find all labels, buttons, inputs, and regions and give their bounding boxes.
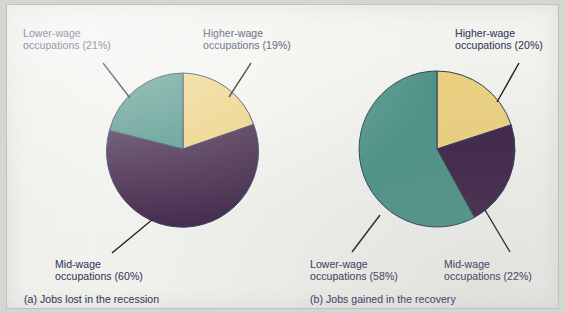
pie-a-label-mid-wage-line2: occupations (60%) (55, 270, 143, 282)
leader-line-a-lower-wage (103, 63, 130, 98)
leader-line-a-higher-wage (229, 63, 251, 97)
pie-a-label-lower-wage-line1: Lower-wage (23, 27, 81, 39)
pie-a-label-lower-wage-line2: occupations (21%) (23, 39, 111, 51)
pie-b-label-higher-wage-line2: occupations (20%) (455, 39, 543, 51)
pie-b-label-lower-wage-line1: Lower-wage (310, 258, 368, 270)
pie-a-label-higher-wage-line1: Higher-wage (203, 27, 263, 39)
pie-b-label-higher-wage: Higher-wage occupations (20%) (455, 27, 543, 52)
leader-line-b-lower-wage (352, 215, 380, 252)
pie-a-label-higher-wage-line2: occupations (19%) (203, 39, 291, 51)
pie-a-label-higher-wage: Higher-wage occupations (19%) (203, 27, 291, 52)
leader-line-a-mid-wage (112, 219, 153, 253)
pie-b-label-higher-wage-line1: Higher-wage (455, 27, 515, 39)
pie-b-label-mid-wage: Mid-wage occupations (22%) (444, 258, 532, 283)
leader-line-b-higher-wage (497, 63, 519, 102)
pie-a-label-mid-wage: Mid-wage occupations (60%) (55, 258, 143, 283)
figure-root: Lower-wage occupations (21%) Higher-wage… (0, 0, 565, 313)
pie-a-caption: (a) Jobs lost in the recession (24, 293, 159, 305)
pie-b-label-mid-wage-line2: occupations (22%) (444, 270, 532, 282)
figure-panel: Lower-wage occupations (21%) Higher-wage… (6, 4, 559, 309)
pie-b-label-lower-wage: Lower-wage occupations (58%) (310, 258, 398, 283)
pie-b-label-lower-wage-line2: occupations (58%) (310, 270, 398, 282)
pie-a-label-mid-wage-line1: Mid-wage (55, 258, 101, 270)
pie-b-label-mid-wage-line1: Mid-wage (444, 258, 490, 270)
leader-line-b-mid-wage (485, 210, 510, 252)
pie-a-label-lower-wage: Lower-wage occupations (21%) (23, 27, 111, 52)
pie-b-caption: (b) Jobs gained in the recovery (310, 293, 456, 305)
